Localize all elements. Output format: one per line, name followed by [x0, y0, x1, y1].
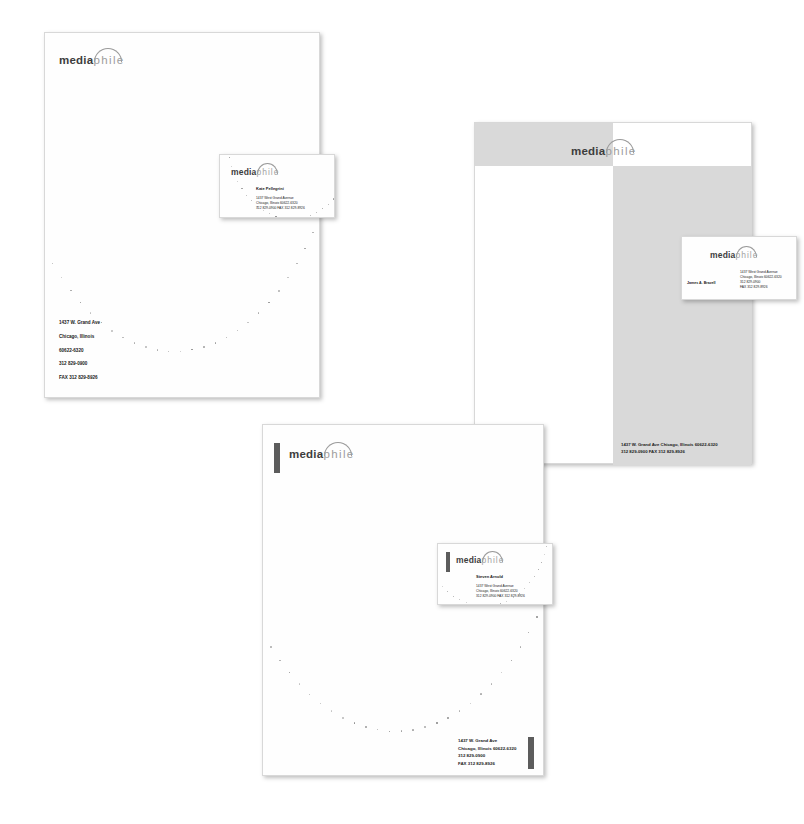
logo-media-text: media [59, 54, 93, 66]
address-line: Chicago, Illinois [59, 335, 100, 340]
logo-arc-icon [94, 48, 122, 62]
business-card-3: mediaphile Steven Arnold 1437 West Grand… [437, 543, 553, 605]
address-line: 312 829-0900 FAX 312 829-8926 [476, 594, 525, 599]
card-person-name: Kate Pellegrini [256, 186, 284, 191]
address-line: 1437 W. Grand Ave Chicago, Illinois 6062… [621, 441, 718, 448]
business-card-1: mediaphile Kate Pellegrini 1437 West Gra… [219, 154, 335, 218]
logo-media-text: media [710, 250, 735, 260]
address-line: 312 829-0900 [458, 752, 516, 760]
brand-logo: mediaphile [710, 251, 758, 260]
brand-logo: mediaphile [59, 55, 125, 67]
accent-bar-left [446, 552, 450, 572]
logo-arc-icon [324, 442, 352, 456]
brand-logo: mediaphile [289, 449, 355, 461]
address-line: 60622-6320 [59, 349, 100, 354]
letterhead-2-address: 1437 W. Grand Ave Chicago, Illinois 6062… [621, 441, 718, 456]
logo-arc-icon [257, 163, 278, 174]
address-line: 312 829-0900 [59, 362, 100, 367]
logo-media-text: media [231, 167, 256, 177]
address-line: 1437 W. Grand Ave [59, 321, 100, 326]
address-line: FAX 312 829-8926 [59, 376, 100, 381]
card-2-address: 1437 West Grand Avenue Chicago, Illinois… [740, 270, 782, 290]
letterhead-1-address: 1437 W. Grand Ave Chicago, Illinois 6062… [59, 321, 100, 390]
logo-media-text: media [289, 448, 323, 460]
letterhead-3-address: 1437 W. Grand Ave Chicago, Illinois 6062… [458, 737, 516, 768]
address-line: Chicago, Illinois 60622-6320 [476, 589, 525, 594]
address-line: Chicago, Illinois 60622-6320 [458, 745, 516, 753]
logo-arc-icon [482, 551, 503, 562]
address-line: Chicago, Illinois 60622-6320 [256, 201, 305, 206]
card-person-name: James A. Brazell [687, 281, 715, 285]
brand-logo: mediaphile [231, 168, 279, 177]
brand-logo: mediaphile [456, 556, 504, 565]
logo-arc-icon [736, 246, 757, 257]
address-line: 312 829-0900 FAX 312 829-8926 [621, 448, 718, 455]
address-line: 1437 W. Grand Ave [458, 737, 516, 745]
brand-logo: mediaphile [571, 146, 637, 158]
card-person-name: Steven Arnold [476, 574, 503, 579]
logo-media-text: media [571, 145, 605, 157]
address-line: 312 829-0900 FAX 312 829-8926 [256, 206, 305, 211]
business-card-2: mediaphile James A. Brazell 1437 West Gr… [681, 236, 797, 300]
address-line: FAX 312 829-8926 [740, 285, 782, 290]
card-3-address: 1437 West Grand Avenue Chicago, Illinois… [476, 584, 525, 598]
accent-bar-top-left [274, 443, 280, 473]
logo-media-text: media [456, 555, 481, 565]
accent-bar-bottom-right [528, 737, 534, 769]
address-line: FAX 312 829-8926 [458, 760, 516, 768]
stationery-portfolio-image: { "brand": { "name_bold": "media", "name… [0, 0, 804, 824]
card-1-address: 1437 West Grand Avenue Chicago, Illinois… [256, 196, 305, 210]
gray-block-bottom-right [613, 166, 751, 465]
